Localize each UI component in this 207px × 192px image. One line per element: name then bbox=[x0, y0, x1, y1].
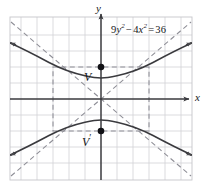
vertex-upper-point bbox=[98, 64, 105, 71]
equation-rhs: 36 bbox=[155, 24, 166, 35]
equation-minus: − bbox=[125, 24, 133, 35]
hyperbola-figure: 9y2−4x2=36 y x V V′ bbox=[0, 0, 207, 192]
vertex-lower-point bbox=[98, 128, 105, 135]
vertex-lower-label: V′ bbox=[82, 133, 92, 148]
equation-annotation: 9y2−4x2=36 bbox=[111, 23, 166, 35]
hyperbola-plot bbox=[0, 0, 207, 192]
vertex-upper-label: V bbox=[84, 71, 91, 83]
y-axis-label: y bbox=[96, 3, 101, 14]
vertex-lower-prime: ′ bbox=[89, 132, 91, 143]
x-axis-label: x bbox=[195, 92, 200, 103]
